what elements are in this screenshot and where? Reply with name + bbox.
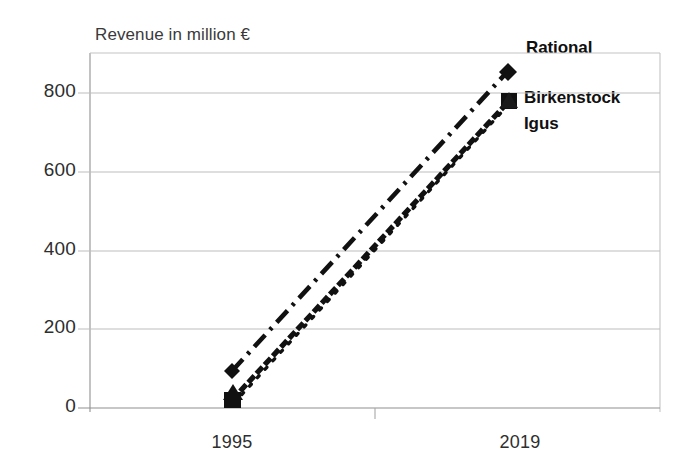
endpoint-marker-cluster bbox=[500, 92, 518, 109]
plot-area bbox=[0, 0, 692, 471]
series-rational bbox=[224, 63, 517, 379]
revenue-line-chart: Revenue in million € 800 600 400 200 0 1… bbox=[0, 0, 692, 471]
series-rational-line bbox=[232, 71, 508, 371]
series-igus-line bbox=[234, 103, 510, 403]
